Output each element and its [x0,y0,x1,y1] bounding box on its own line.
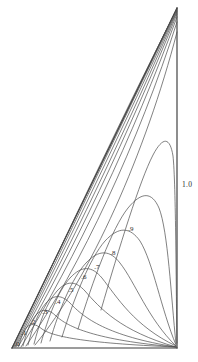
hypotenuse-curve-bundle [12,8,177,348]
contour-value-label: .6 [81,273,87,281]
contour-value-label: .0 [14,340,20,348]
contour-value-label: .4 [55,298,61,306]
contour-value-label: .7 [94,263,100,271]
contour-label-group: .0.1.2.3.4.5.6.7.8.91.0 [14,180,192,348]
hypotenuse-bundle-curve-3 [15,11,177,347]
contour-value-label: .2 [30,318,36,326]
contour-value-label: .5 [68,286,74,294]
hypotenuse-bundle-curve-7 [26,22,177,346]
hypotenuse-bundle-curve-5 [18,14,177,347]
contour-value-label: .3 [42,308,48,316]
contour-curve-p7 [62,230,176,345]
hypotenuse-bundle-curve-2 [14,10,177,347]
contour-value-label: .8 [110,249,116,257]
contour-curve-p9 [101,141,177,343]
contour-plot-svg: .0.1.2.3.4.5.6.7.8.91.0 [0,0,198,362]
contour-value-label: .9 [128,225,134,233]
hypotenuse-bundle-curve-6 [21,17,177,347]
contour-value-label: .1 [21,329,27,337]
contour-figure: .0.1.2.3.4.5.6.7.8.91.0 [0,0,198,362]
axis-value-label: 1.0 [182,180,192,189]
contour-curve-p6 [50,253,176,346]
